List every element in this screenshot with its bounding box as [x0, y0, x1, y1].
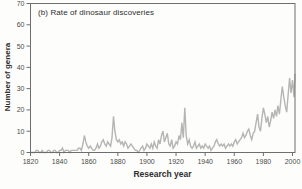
y-tick-label: 20: [17, 106, 25, 113]
x-tick-label: 1960: [226, 158, 242, 165]
x-tick-label: 1980: [256, 158, 272, 165]
y-tick-label: 40: [17, 64, 25, 71]
chart-title: (b) Rate of dinosaur discoveries: [38, 8, 154, 17]
y-tick-label: 60: [17, 21, 25, 28]
y-tick-label: 50: [17, 43, 25, 50]
y-axis-title: Number of genera: [3, 41, 12, 113]
x-tick-label: 1920: [168, 158, 184, 165]
y-tick-label: 70: [17, 0, 25, 7]
plot-area: 0102030405060701820184018601880190019201…: [0, 0, 302, 189]
x-tick-label: 1880: [110, 158, 126, 165]
data-line: [31, 74, 296, 153]
y-tick-label: 10: [17, 128, 25, 135]
x-tick-label: 2000: [285, 158, 301, 165]
chart-figure: 0102030405060701820184018601880190019201…: [0, 0, 302, 189]
x-tick-label: 1940: [197, 158, 213, 165]
x-tick-label: 1900: [139, 158, 155, 165]
x-axis-title: Research year: [30, 169, 295, 179]
x-tick-label: 1840: [52, 158, 68, 165]
x-tick-label: 1860: [81, 158, 97, 165]
x-tick-label: 1820: [23, 158, 39, 165]
y-tick-label: 30: [17, 85, 25, 92]
y-tick-label: 0: [21, 149, 25, 156]
